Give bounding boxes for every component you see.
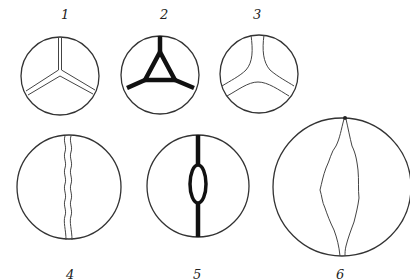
panel-4: 4 [17, 135, 121, 280]
panel-label-6: 6 [336, 267, 344, 280]
panel-5: 5 [147, 135, 249, 280]
circle-4 [17, 135, 121, 239]
panel-3: 3 [220, 7, 298, 113]
thick-line-with-oval [190, 135, 206, 237]
panel-1: 1 [21, 7, 99, 115]
wavy-spindle-lens [320, 119, 359, 256]
panel-label-5: 5 [193, 267, 201, 280]
diagram-canvas: 1 2 3 4 [0, 0, 410, 280]
panel-label-4: 4 [65, 267, 74, 280]
wavy-double-line [64, 136, 72, 240]
panel-6: 6 [273, 116, 410, 280]
panel-label-1: 1 [61, 7, 69, 22]
circle-3 [220, 35, 298, 113]
panel-2: 2 [121, 7, 199, 114]
circle-6 [273, 118, 410, 256]
panel-label-2: 2 [159, 7, 168, 22]
panel-label-3: 3 [253, 7, 261, 22]
